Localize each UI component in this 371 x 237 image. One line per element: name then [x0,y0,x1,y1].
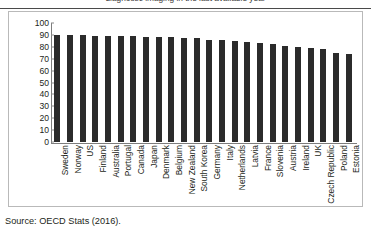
x-axis-category-label: Slovenia [276,145,285,177]
y-axis-tick-label: 50 [39,78,49,87]
source-note: Source: OECD Stats (2016). [5,216,121,227]
bar [232,41,238,142]
x-axis-category-label: UK [314,145,323,157]
y-axis-tick-mark [51,118,54,119]
x-axis-category-label: Estonia [352,145,361,173]
x-axis-category-label: Netherlands [238,145,247,190]
y-axis-tick-mark [51,58,54,59]
x-axis-category-label: Finland [99,145,108,172]
x-axis-category-label: Sweden [61,145,70,175]
y-axis-tick-mark [51,142,54,143]
chart-frame: 0102030405060708090100 SwedenNorwayUSFin… [8,11,363,207]
plot-area [51,23,355,142]
x-axis-category-label: Australia [112,145,121,178]
x-axis-category-label: Portugal [124,145,133,176]
x-axis-category-label: Norway [74,145,83,173]
bar [320,49,326,142]
chart-title-strip: diagnostic imaging in the last available… [0,0,371,8]
bar [308,48,314,142]
x-axis-category-label: Ireland [302,145,311,171]
bar [346,54,352,142]
bar [168,37,174,142]
bar [54,35,60,142]
y-axis-tick-label: 30 [39,102,49,111]
x-axis-category-label: Latvia [251,145,260,167]
y-axis-tick-label: 90 [39,30,49,39]
bar [257,43,263,142]
y-axis-tick-label: 0 [44,138,49,147]
bar [105,36,111,142]
y-axis-tick-mark [51,23,54,24]
bar [67,35,73,142]
x-axis-category-label: Italy [226,145,235,160]
x-axis-category-label: Denmark [162,145,171,179]
x-axis-category-label: Belgium [175,145,184,175]
x-axis-category-label: Japan [150,145,159,168]
x-axis-category-labels: SwedenNorwayUSFinlandAustraliaPortugalCa… [51,145,357,207]
y-axis-tick-mark [51,82,54,83]
x-axis-category-label: Czech Republic [327,145,336,204]
bar [333,53,339,142]
x-axis-category-label: France [264,145,273,171]
y-axis-tick-mark [51,34,54,35]
bar [130,36,136,142]
y-axis-tick-mark [51,70,54,71]
x-axis-category-label: Canada [137,145,146,174]
y-axis-tick-mark [51,130,54,131]
bar [80,35,86,142]
bar [270,44,276,142]
bar [219,40,225,142]
y-axis-tick-label: 100 [35,19,49,28]
bar [92,36,98,142]
y-axis-tick-label: 40 [39,90,49,99]
x-axis-category-label: South Korea [200,145,209,192]
bar [206,40,212,142]
x-axis-category-label: Austria [289,145,298,171]
y-axis-tick-mark [51,94,54,95]
y-axis-tick-mark [51,106,54,107]
y-axis-tick-label: 60 [39,66,49,75]
bar [194,38,200,142]
title-divider [0,8,371,9]
x-axis-category-label: Germany [213,145,222,179]
bar [282,46,288,142]
bar [244,42,250,142]
bar [156,37,162,142]
bar [181,38,187,142]
y-axis-tick-labels: 0102030405060708090100 [9,12,49,208]
bar [295,47,301,142]
y-axis-tick-mark [51,46,54,47]
bar [143,37,149,142]
y-axis-tick-label: 10 [39,126,49,135]
y-axis-tick-label: 80 [39,42,49,51]
bar [118,36,124,142]
x-axis-category-label: Poland [340,145,349,171]
y-axis-tick-label: 20 [39,114,49,123]
x-axis-category-label: US [86,145,95,157]
x-axis-category-label: New Zealand [188,145,197,194]
page-title: diagnostic imaging in the last available… [0,0,371,3]
y-axis-tick-label: 70 [39,54,49,63]
